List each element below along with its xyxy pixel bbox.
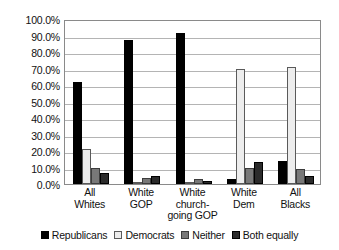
- x-axis-label-line: going GOP: [161, 210, 224, 222]
- y-axis-tick-label: 60.0%: [0, 81, 60, 92]
- bar: [142, 178, 151, 184]
- bar-group: [227, 21, 263, 184]
- y-axis-tick-label: 20.0%: [0, 147, 60, 158]
- x-axis-label-line: Blacks: [264, 199, 327, 211]
- bar: [91, 168, 100, 185]
- bar-group: [124, 21, 160, 184]
- legend-item: Republicans: [41, 229, 108, 241]
- plot-area: [64, 20, 321, 185]
- y-axis-tick-label: 50.0%: [0, 98, 60, 109]
- bar-group: [176, 21, 212, 184]
- bar: [124, 40, 133, 184]
- y-axis-tick-label: 100.0%: [0, 15, 60, 26]
- y-axis-tick-label: 80.0%: [0, 48, 60, 59]
- chart-legend: RepublicansDemocratsNeitherBoth equally: [0, 229, 339, 241]
- x-axis-label-line: All: [264, 187, 327, 199]
- bar: [151, 176, 160, 184]
- bar: [254, 162, 263, 184]
- bar: [305, 176, 314, 184]
- bar: [100, 173, 109, 184]
- white-square-icon: [114, 231, 122, 239]
- x-axis-category-label: AllBlacks: [264, 187, 327, 210]
- y-axis-tick-label: 10.0%: [0, 164, 60, 175]
- bar: [287, 67, 296, 184]
- legend-item: Both equally: [232, 229, 298, 241]
- bar: [236, 69, 245, 185]
- legend-label: Republicans: [52, 229, 108, 241]
- y-axis-tick-label: 0.0%: [0, 180, 60, 191]
- dark-gray-square-icon: [232, 231, 240, 239]
- bar-chart: 100.0%90.0%80.0%70.0%60.0%50.0%40.0%30.0…: [0, 0, 339, 250]
- legend-label: Democrats: [125, 229, 174, 241]
- bar: [133, 182, 142, 184]
- legend-label: Both equally: [243, 229, 298, 241]
- y-axis-tick-label: 90.0%: [0, 32, 60, 43]
- legend-item: Neither: [181, 229, 224, 241]
- y-axis-tick-label: 70.0%: [0, 65, 60, 76]
- bar: [227, 179, 236, 184]
- bar: [245, 168, 254, 185]
- bar: [194, 179, 203, 184]
- gray-square-icon: [181, 231, 189, 239]
- bar: [185, 182, 194, 184]
- y-axis-tick-label: 30.0%: [0, 131, 60, 142]
- black-square-icon: [41, 231, 49, 239]
- bar: [73, 82, 82, 184]
- bar-group: [73, 21, 109, 184]
- bar: [203, 181, 212, 184]
- legend-item: Democrats: [114, 229, 174, 241]
- bar: [82, 149, 91, 184]
- x-axis: AllWhitesWhiteGOPWhitechurch-going GOPWh…: [64, 187, 321, 227]
- legend-label: Neither: [192, 229, 224, 241]
- bar: [278, 161, 287, 184]
- bar: [296, 169, 305, 184]
- bar: [176, 33, 185, 184]
- bar-group: [278, 21, 314, 184]
- y-axis-tick-label: 40.0%: [0, 114, 60, 125]
